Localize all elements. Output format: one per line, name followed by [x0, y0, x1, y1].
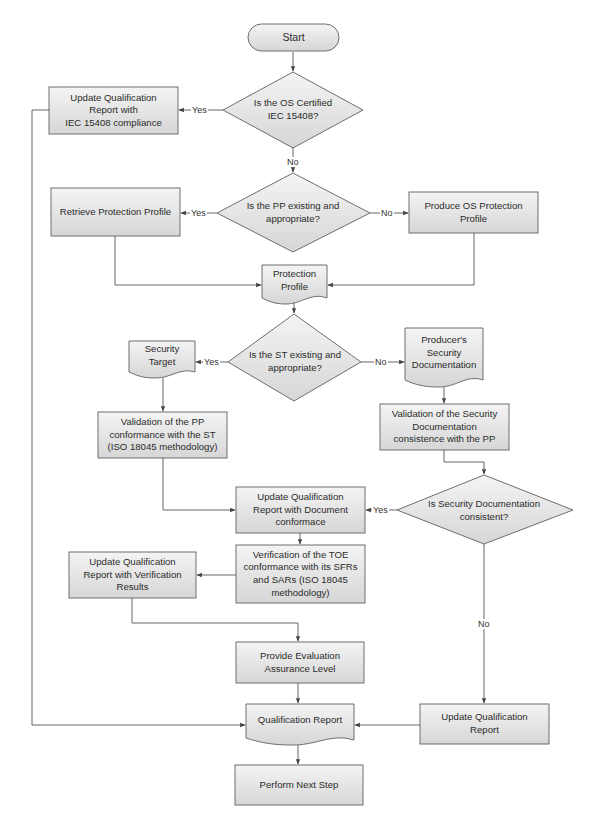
edge-label-yes-secdoc: Yes — [372, 505, 389, 515]
edge-label-no-os: No — [286, 157, 300, 167]
decision-st-existing-label: Is the ST existing and appropriate? — [240, 344, 350, 380]
produce-os-pp-label: Produce OS Protection Profile — [409, 192, 538, 233]
edge-label-yes-st: Yes — [203, 357, 220, 367]
qualification-report-label: Qualification Report — [246, 704, 354, 737]
security-target-label: Security Target — [129, 341, 195, 371]
decision-os-certified-label: Is the OS Certified IEC 15408? — [238, 92, 348, 128]
edge-label-yes-pp: Yes — [190, 208, 207, 218]
decision-secdoc-consistent-label: Is Security Documentation consistent? — [413, 493, 555, 529]
validation-secdoc-label: Validation of the Security Documentation… — [380, 404, 509, 450]
producers-sec-doc-label: Producer's Security Documentation — [405, 328, 483, 378]
update-qr-iec-label: Update Qualification Report with IEC 154… — [49, 87, 178, 134]
perform-next-step-label: Perform Next Step — [235, 765, 363, 805]
protection-profile-label: Protection Profile — [262, 265, 327, 297]
update-qr-label: Update Qualification Report — [420, 704, 549, 744]
edge-label-no-secdoc: No — [477, 619, 491, 629]
verification-toe-label: Verification of the TOE conformance with… — [236, 545, 365, 603]
edge-label-no-st: No — [374, 357, 388, 367]
decision-pp-existing-label: Is the PP existing and appropriate? — [232, 195, 354, 231]
start-label: Start — [248, 24, 339, 51]
validation-pp-st-label: Validation of the PP conformance with th… — [98, 412, 227, 458]
update-qr-doc-label: Update Qualification Report with Documen… — [236, 487, 365, 533]
edge-label-yes-os: Yes — [191, 105, 208, 115]
update-qr-verif-label: Update Qualification Report with Verific… — [69, 552, 196, 598]
retrieve-pp-label: Retrieve Protection Profile — [51, 188, 180, 236]
edge-label-no-pp: No — [380, 208, 394, 218]
provide-eal-label: Provide Evaluation Assurance Level — [236, 642, 364, 683]
